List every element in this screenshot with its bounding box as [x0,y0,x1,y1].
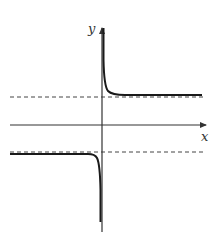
curve-left-branch [10,154,101,222]
function-graph: y x [0,0,219,235]
y-axis-label: y [87,21,96,36]
curve-right-branch [104,28,203,95]
x-axis-label: x [201,129,209,144]
